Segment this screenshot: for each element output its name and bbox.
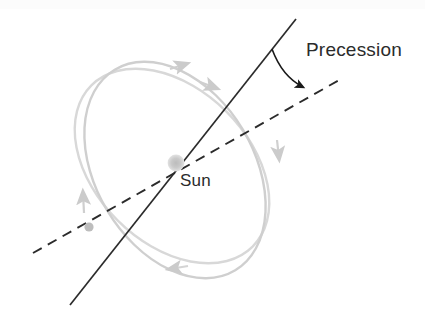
sun-label: Sun [180, 172, 211, 189]
diagram-canvas: Precession Sun [0, 0, 425, 313]
planet-marker [84, 222, 93, 231]
precession-angle-arc [272, 49, 303, 87]
orbit-direction-arrow-bottom [170, 266, 188, 269]
precession-label: Precession [306, 40, 402, 59]
orbit-direction-arrow-left [83, 193, 84, 213]
orbit-direction-arrow-right [277, 140, 279, 158]
sun-marker [168, 155, 185, 172]
